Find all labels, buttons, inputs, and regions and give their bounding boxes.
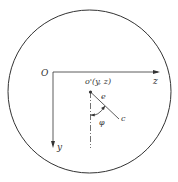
angle-arrow-start-icon: [91, 114, 96, 117]
center-point-label: o'(y, z): [85, 77, 111, 86]
y-axis-arrow-icon: [51, 141, 55, 148]
point-c-label: c: [121, 114, 126, 123]
eccentricity-label: e: [101, 92, 106, 101]
y-axis-label: y: [56, 142, 63, 152]
angle-label: φ: [99, 118, 105, 127]
diagram-canvas: O z y o'(y, z) e φ c: [0, 0, 178, 182]
origin-label: O: [41, 68, 49, 78]
z-axis-label: z: [152, 76, 158, 86]
z-axis-arrow-icon: [153, 70, 160, 74]
